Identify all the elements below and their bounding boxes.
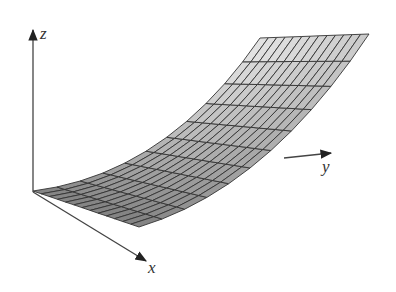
x-axis-label: x xyxy=(148,259,156,276)
z-axis-label: z xyxy=(40,25,47,42)
surface-plot-figure xyxy=(0,0,396,292)
parabolic-surface xyxy=(33,34,369,227)
y-axis-label: y xyxy=(322,158,330,175)
